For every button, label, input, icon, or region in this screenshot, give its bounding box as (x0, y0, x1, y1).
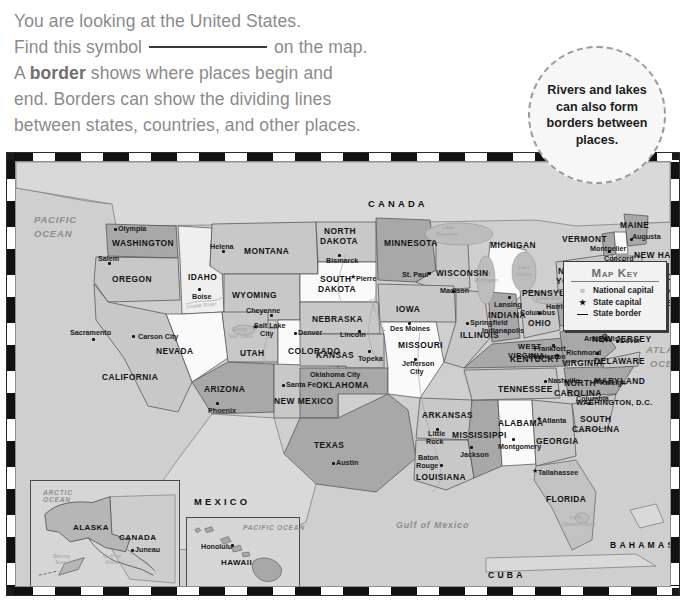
capital-marker-carson-city (132, 335, 135, 338)
map-key-row-state-border: State border (577, 309, 659, 318)
capital-marker-montpelier (608, 250, 611, 253)
capital-marker-boise (198, 288, 201, 291)
capital-marker-baton-rouge (440, 464, 443, 467)
map-frame: .land{fill:#c2c2c2;stroke:#5e5e5e;stroke… (6, 152, 680, 596)
intro-line-5: between states, countries, and other pla… (14, 112, 534, 138)
callout-bubble: Rivers and lakes can also form borders b… (528, 46, 666, 184)
intro-line-2: Find this symbolon the map. (14, 34, 534, 60)
capital-marker-raleigh: ★ (594, 378, 600, 383)
capital-marker-little-rock (436, 428, 439, 431)
capital-marker-jefferson-city (414, 358, 417, 361)
capital-marker-jackson (470, 446, 473, 449)
callout-text: Rivers and lakes can also form borders b… (530, 82, 664, 148)
frame-corner-dot (7, 588, 14, 595)
map-key-row-state-capital: ★ State capital (577, 298, 659, 307)
capital-marker-frankfort (552, 344, 555, 347)
capital-marker-topeka (368, 350, 371, 353)
capital-marker-salt-lake-city: ★ (252, 324, 258, 329)
map-key-title: Map Key (571, 267, 659, 282)
capital-marker-helena (222, 250, 225, 253)
inset-map-hawaii[interactable]: PACIFIC OCEAN Honolulu HAWAII (186, 517, 300, 587)
capital-marker-honolulu (231, 544, 234, 547)
capital-marker-phoenix (216, 402, 219, 405)
capital-marker-columbus (538, 312, 541, 315)
national-capital-marker (602, 334, 607, 339)
capital-marker-juneau (131, 549, 134, 552)
intro-text-block: You are looking at the United States. Fi… (14, 8, 534, 138)
intro-line-4: end. Borders can show the dividing lines (14, 86, 534, 112)
capital-marker-austin (332, 462, 335, 465)
intro-line-3-suffix: shows where places begin and (91, 63, 333, 83)
border-symbol-rule (149, 46, 267, 48)
frame-corner-dot (672, 588, 679, 595)
capital-marker-charleston (556, 354, 559, 357)
intro-line-3: A border shows where places begin and (14, 60, 534, 86)
hawaii-inset-svg (187, 518, 299, 587)
capital-marker-dover (616, 340, 619, 343)
intro-line-2-prefix: Find this symbol (14, 37, 142, 57)
capital-marker-columbia (588, 402, 591, 405)
capital-marker-lincoln (358, 330, 361, 333)
capital-marker-atlanta: ★ (536, 416, 542, 421)
intro-line-3-prefix: A (14, 63, 25, 83)
capital-marker-springfield (466, 322, 469, 325)
capital-marker-montgomery (512, 438, 515, 441)
capital-marker-tallahassee: ★ (532, 468, 538, 473)
frame-corner-dot (672, 153, 679, 160)
map-key-box: Map Key ○ National capital ★ State capit… (563, 261, 667, 331)
capital-marker-sacramento (92, 338, 95, 341)
capital-marker-salem (108, 262, 111, 265)
capital-marker-richmond (596, 352, 599, 355)
capital-marker-cheyenne (270, 314, 273, 317)
border-keyword: border (30, 63, 86, 83)
national-capital-icon: ○ (577, 286, 588, 295)
map-key-label-state-capital: State capital (593, 298, 641, 307)
inset-map-alaska[interactable]: ARCTIC OCEAN ALASKA CANADA Juneau Bering… (30, 480, 180, 587)
capital-marker-bismarck (338, 254, 341, 257)
map-key-label-state-border: State border (593, 309, 641, 318)
capital-marker-olympia (114, 228, 117, 231)
state-capital-icon: ★ (577, 298, 588, 307)
capital-marker-lansing (508, 296, 511, 299)
map-key-row-national-capital: ○ National capital (577, 286, 659, 295)
alaska-inset-svg (31, 481, 179, 587)
capital-marker-pierre: ★ (350, 274, 356, 279)
map-key-label-national-capital: National capital (593, 286, 654, 295)
capital-marker-santa-fe (282, 384, 285, 387)
capital-marker-st-paul (428, 272, 431, 275)
capital-marker-des-moines (408, 322, 411, 325)
capital-marker-madison (452, 290, 455, 293)
map-canvas[interactable]: .land{fill:#c2c2c2;stroke:#5e5e5e;stroke… (15, 161, 671, 587)
capital-marker-denver (294, 332, 297, 335)
capital-marker-nashville (544, 380, 547, 383)
intro-line-2-suffix: on the map. (274, 37, 368, 57)
frame-corner-dot (7, 153, 14, 160)
intro-line-1: You are looking at the United States. (14, 8, 534, 34)
state-border-icon (577, 314, 588, 315)
capital-marker-augusta (630, 238, 633, 241)
